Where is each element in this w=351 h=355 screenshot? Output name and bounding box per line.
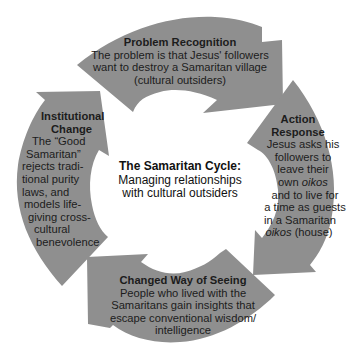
stage-changed-way-of-seeing: Changed Way of Seeing People who lived w… (108, 274, 258, 337)
stage-text-line: Jesus asks his (267, 138, 340, 150)
center-title: The Samaritan Cycle: (105, 160, 255, 174)
stage-text-line: a time as guests (264, 201, 345, 213)
stage-title: Change (51, 123, 106, 136)
stage-text-line: own (278, 176, 299, 188)
stage-text-line: in a Samaritan (264, 214, 336, 226)
stage-title: Problem Recognition (80, 36, 280, 49)
stage-text-line: and to live for (271, 189, 338, 201)
stage-text-line: laws, and (22, 186, 69, 198)
stage-action-response: Action Response Jesus asks his followers… (253, 113, 351, 239)
cycle-center-label: The Samaritan Cycle: Managing relationsh… (105, 160, 255, 201)
stage-text-line: tional purity (22, 173, 79, 185)
stage-institutional-change: Institutional Change The “Good Samaritan… (18, 110, 106, 249)
stage-text-line: People who lived with the (120, 287, 246, 299)
stage-title: Action (243, 113, 351, 126)
stage-text-line: leave their (277, 163, 329, 175)
stage-title: Response (243, 126, 351, 139)
stage-text-line: models life- (24, 198, 81, 210)
stage-text-line: Samaritan” (26, 148, 81, 160)
stage-text-line: (house) (295, 226, 333, 238)
stage-text-line: escape conventional wisdom/ (110, 312, 256, 324)
stage-text-line: followers to (275, 151, 332, 163)
center-subtitle-line: with cultural outsiders (122, 186, 237, 200)
stage-text-line: want to destroy a Samaritan village (93, 61, 267, 73)
stage-title: Changed Way of Seeing (108, 274, 258, 287)
stage-text-line: (cultural outsiders) (134, 74, 226, 86)
stage-text-line: rejects tradi- (22, 160, 84, 172)
stage-text-line: The problem is that Jesus' followers (91, 49, 268, 61)
stage-text-line: benevolence (36, 236, 99, 248)
stage-title: Institutional (41, 110, 106, 123)
stage-text-line: The “Good (32, 135, 85, 147)
stage-text-line: giving cross- (28, 211, 91, 223)
stage-text-line: intelligence (155, 324, 211, 336)
stage-text-line: cultural (34, 223, 70, 235)
stage-text-italic: oikos (302, 176, 328, 188)
stage-text-line: Samaritans gain insights that (111, 299, 255, 311)
stage-text-italic: oikos (265, 226, 291, 238)
stage-problem-recognition: Problem Recognition The problem is that … (80, 36, 280, 86)
center-subtitle-line: Managing relationships (118, 173, 241, 187)
